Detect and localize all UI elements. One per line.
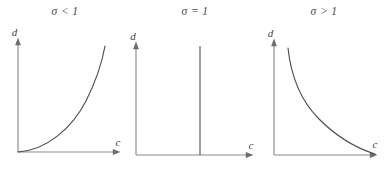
plot-panel-sigma-less-than-one: σ < 1 d c (0, 0, 130, 172)
figure-three-panel-plot: σ < 1 d c σ = 1 (0, 0, 388, 172)
x-axis-label: c (116, 136, 121, 148)
curve-convex-decreasing (288, 48, 375, 154)
y-axis-label: d (12, 26, 18, 38)
x-axis-label: c (373, 138, 378, 150)
y-axis-label: d (268, 27, 274, 39)
y-axis-arrowhead-icon (271, 39, 277, 47)
x-axis-arrowhead-icon (246, 152, 254, 158)
y-axis-arrowhead-icon (15, 38, 21, 46)
curve-convex-increasing (18, 46, 105, 152)
x-axis-arrowhead-icon (113, 149, 121, 155)
plot-area: d c (130, 0, 260, 172)
plot-panel-sigma-greater-than-one: σ > 1 d c (260, 0, 388, 172)
y-axis-arrowhead-icon (133, 42, 139, 50)
plot-panel-sigma-equals-one: σ = 1 d c (130, 0, 260, 172)
y-axis-label: d (130, 30, 136, 42)
plot-area: d c (0, 0, 130, 172)
x-axis-label: c (249, 139, 254, 151)
plot-area: d c (260, 0, 388, 172)
